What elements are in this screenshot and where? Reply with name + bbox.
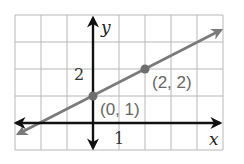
coordinate-graph: y x 2 1 (0, 1) (2, 2) [0, 0, 244, 164]
point-label-0-1: (0, 1) [100, 100, 140, 119]
x-tick-label: 1 [114, 129, 124, 148]
point-0-1 [89, 92, 98, 101]
x-axis-label: x [209, 129, 219, 149]
point-2-2 [141, 65, 150, 74]
point-label-2-2: (2, 2) [152, 73, 192, 92]
y-tick-label: 2 [74, 65, 84, 84]
y-axis-label: y [100, 17, 111, 37]
